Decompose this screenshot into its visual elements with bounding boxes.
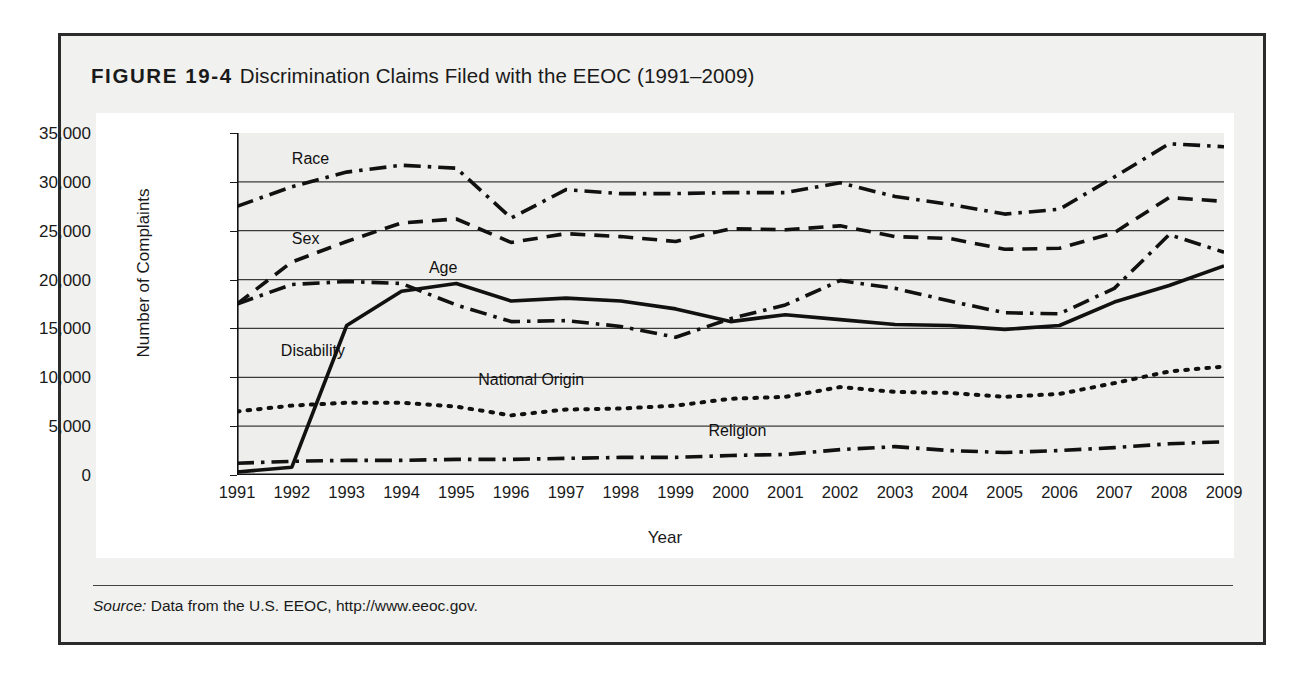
x-axis-label: Year (96, 528, 1234, 548)
y-tick-mark (230, 426, 237, 427)
y-tick-label: 20,000 (0, 271, 91, 291)
y-tick-label: 35,000 (0, 124, 91, 144)
source-divider (93, 585, 1233, 586)
series-line-national-origin (237, 367, 1224, 416)
series-label-national-origin: National Origin (478, 371, 584, 389)
figure-frame: FIGURE 19-4Discrimination Claims Filed w… (58, 33, 1266, 645)
source-label: Source: (93, 597, 146, 614)
y-tick-label: 5,000 (0, 417, 91, 437)
y-tick-label: 10,000 (0, 368, 91, 388)
plot-area: RaceSexAgeDisabilityNational OriginRelig… (237, 133, 1224, 475)
y-tick-label: 25,000 (0, 222, 91, 242)
series-label-disability: Disability (281, 342, 345, 360)
y-axis-label: Number of Complaints (134, 153, 154, 393)
y-tick-mark (230, 328, 237, 329)
x-tick-label: 2009 (1189, 483, 1259, 502)
series-line-religion (237, 442, 1224, 463)
series-label-sex: Sex (292, 230, 320, 248)
y-tick-mark (230, 475, 237, 476)
chart-panel: Number of Complaints Year 05,00010,00015… (96, 113, 1234, 558)
figure-caption: Discrimination Claims Filed with the EEO… (240, 64, 755, 87)
y-tick-mark (230, 133, 237, 134)
series-label-age: Age (429, 259, 457, 277)
y-tick-mark (230, 377, 237, 378)
series-line-sex (237, 197, 1224, 304)
y-tick-label: 30,000 (0, 173, 91, 193)
figure-title: FIGURE 19-4Discrimination Claims Filed w… (91, 64, 1191, 88)
y-tick-label: 0 (0, 466, 91, 486)
source-value: Data from the U.S. EEOC, http://www.eeoc… (151, 597, 478, 614)
series-line-race (237, 144, 1224, 218)
y-tick-mark (230, 182, 237, 183)
series-line-disability (237, 266, 1224, 472)
y-tick-mark (230, 231, 237, 232)
source-note: Source: Data from the U.S. EEOC, http://… (93, 597, 478, 615)
y-tick-label: 15,000 (0, 319, 91, 339)
series-label-race: Race (292, 150, 329, 168)
y-tick-mark (230, 280, 237, 281)
series-label-religion: Religion (709, 422, 767, 440)
figure-page: FIGURE 19-4Discrimination Claims Filed w… (0, 0, 1316, 679)
figure-number: FIGURE 19-4 (91, 64, 233, 87)
